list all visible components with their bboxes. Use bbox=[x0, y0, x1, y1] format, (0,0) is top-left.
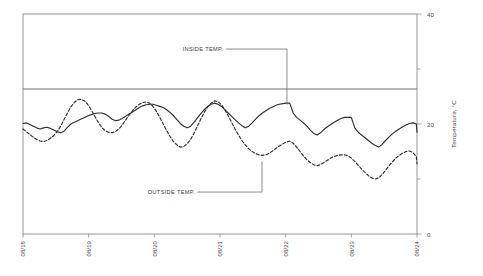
x-tick-label-5: 08/23 bbox=[349, 240, 355, 256]
chart-background bbox=[0, 0, 483, 276]
x-tick-label-3: 08/21 bbox=[217, 240, 223, 256]
x-tick-label-4: 08/22 bbox=[283, 240, 289, 256]
x-tick-label-0: 08/18 bbox=[20, 240, 26, 256]
inside-temp-label: INSIDE TEMP. bbox=[183, 46, 224, 52]
y-axis-title: Temperature, °C bbox=[450, 100, 457, 148]
temperature-chart: 40 20 0 Temperature, °C 08/1808/1908/200… bbox=[0, 0, 483, 276]
y-tick-label-20: 20 bbox=[427, 121, 435, 128]
x-tick-label-1: 08/19 bbox=[86, 240, 92, 256]
y-tick-label-0: 0 bbox=[427, 231, 431, 238]
x-tick-label-2: 08/20 bbox=[152, 240, 158, 256]
x-tick-label-6: 08/24 bbox=[414, 240, 420, 256]
y-tick-label-40: 40 bbox=[427, 11, 435, 18]
outside-temp-label: OUTSIDE TEMP. bbox=[148, 189, 195, 195]
chart-svg: 40 20 0 Temperature, °C 08/1808/1908/200… bbox=[0, 0, 483, 276]
